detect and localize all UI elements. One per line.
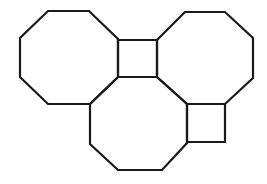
- octagon-square-tiling-diagram: [0, 0, 267, 184]
- bottom-right-square: [187, 104, 225, 142]
- bottom-octagon: [90, 77, 187, 170]
- top-square: [118, 40, 157, 77]
